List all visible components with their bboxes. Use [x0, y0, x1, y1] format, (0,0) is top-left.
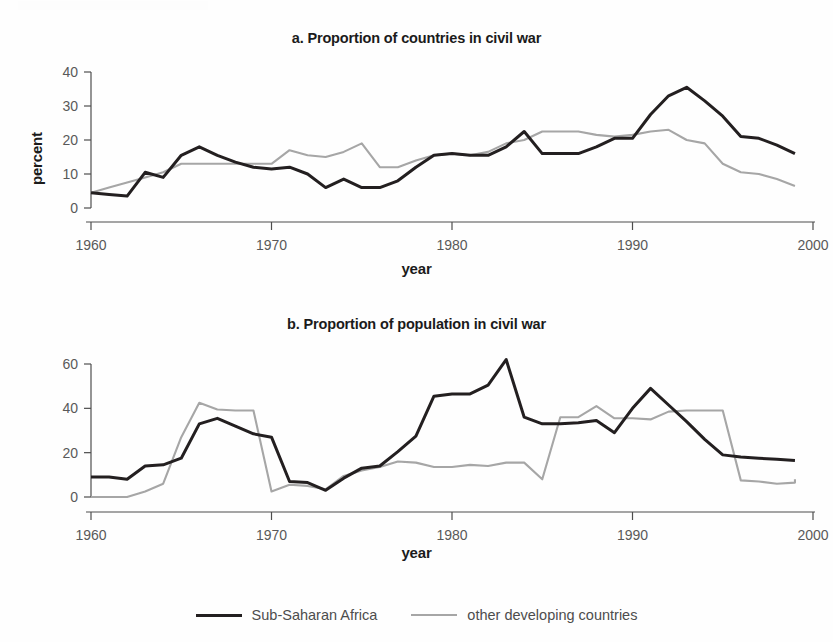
y-tick-label: 20	[62, 132, 78, 148]
y-tick-label: 0	[70, 489, 78, 505]
x-tick-label: 1990	[617, 527, 648, 543]
y-tick-label: 20	[62, 445, 78, 461]
panel-b-plot-area: 020406019601970198019902000	[0, 288, 833, 578]
panel-a-svg: 01020304019601970198019902000	[0, 0, 833, 290]
series-line-other-developing-countries	[91, 403, 795, 497]
figure-page: a. Proportion of countries in civil war …	[0, 0, 833, 642]
y-tick-label: 40	[62, 400, 78, 416]
panel-a-plot-area: 01020304019601970198019902000	[0, 0, 833, 290]
x-tick-label: 1980	[436, 527, 467, 543]
y-tick-label: 0	[70, 200, 78, 216]
x-tick-label: 1960	[75, 237, 106, 253]
x-tick-label: 2000	[797, 237, 828, 253]
panel-a-x-axis-label: year	[0, 260, 833, 277]
x-tick-label: 1970	[256, 527, 287, 543]
legend-label-other-developing-countries: other developing countries	[467, 607, 637, 623]
x-tick-label: 1980	[436, 237, 467, 253]
series-line-sub-saharan-africa	[91, 87, 795, 196]
legend-item-other-developing-countries: other developing countries	[411, 607, 637, 623]
chart-panel-b: b. Proportion of population in civil war…	[0, 288, 833, 578]
chart-legend: Sub-Saharan Africa other developing coun…	[0, 600, 833, 630]
x-tick-label: 1960	[75, 527, 106, 543]
series-line-other-developing-countries	[91, 130, 795, 193]
chart-panel-a: a. Proportion of countries in civil war …	[0, 0, 833, 290]
y-tick-label: 30	[62, 98, 78, 114]
x-tick-label: 2000	[797, 527, 828, 543]
series-line-sub-saharan-africa	[91, 360, 795, 491]
legend-line-icon-light	[411, 614, 457, 616]
y-tick-label: 60	[62, 356, 78, 372]
x-tick-label: 1970	[256, 237, 287, 253]
legend-label-sub-saharan-africa: Sub-Saharan Africa	[252, 607, 378, 623]
x-tick-label: 1990	[617, 237, 648, 253]
panel-b-svg: 020406019601970198019902000	[0, 288, 833, 578]
y-tick-label: 10	[62, 166, 78, 182]
panel-b-x-axis-label: year	[0, 544, 833, 561]
legend-line-icon-dark	[196, 614, 242, 617]
y-tick-label: 40	[62, 64, 78, 80]
legend-item-sub-saharan-africa: Sub-Saharan Africa	[196, 607, 378, 623]
